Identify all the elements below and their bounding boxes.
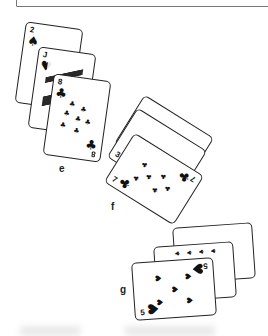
club-icon: ♣ (210, 248, 216, 254)
club-icon: ♣ (164, 184, 173, 193)
card-rank-bottom: 8 (90, 149, 96, 158)
club-icon: ♣ (141, 161, 150, 170)
club-icon: ♣ (63, 110, 70, 118)
spade-icon: ♠ (26, 34, 39, 48)
club-icon: ♣ (73, 128, 80, 136)
club-icon: ♣ (68, 101, 75, 109)
group-label-g: g (120, 284, 126, 295)
club-icon: ♣ (80, 106, 87, 114)
card-rank-bottom: 5 (203, 262, 208, 270)
heart-icon: ♥ (187, 296, 195, 304)
card-8-of-clubs: 8 ♣ ♣ ♣ ♣ ♣ ♣ ♣ ♣ ♣ 8 (43, 73, 112, 162)
club-icon: ♣ (84, 119, 91, 127)
heart-icon: ♥ (157, 299, 165, 307)
club-icon: ♣ (151, 186, 160, 195)
group-label-e: e (59, 163, 65, 174)
card-rank: 5 (140, 309, 145, 317)
group-label-f: f (111, 201, 114, 212)
heart-icon: ♥ (155, 275, 163, 283)
club-icon: ♣ (160, 172, 169, 181)
club-icon: ♣ (54, 86, 67, 100)
scan-artifact-right (125, 326, 215, 336)
top-frame-border (16, 0, 268, 7)
club-icon: ♣ (174, 251, 180, 257)
club-icon: ♣ (198, 249, 204, 255)
club-icon: ♣ (186, 250, 192, 256)
heart-icon: ♥ (172, 285, 180, 293)
club-icon: ♣ (116, 175, 133, 192)
club-icon: ♣ (145, 173, 154, 182)
scan-artifact-left (20, 326, 80, 336)
card-5-of-hearts: 5 ♥ ♥ ♥ ♥ ♥ ♥ ♥ 5 (131, 257, 217, 321)
club-icon: ♣ (74, 116, 81, 124)
club-icon: ♣ (59, 122, 66, 130)
